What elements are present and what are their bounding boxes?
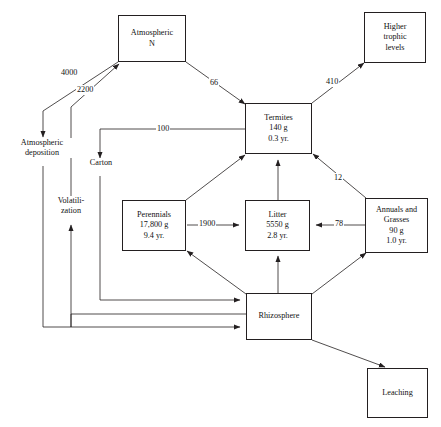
- node-label: Litter: [268, 210, 286, 220]
- node-litter[interactable]: Litter 5550 g 2.8 yr.: [245, 200, 310, 251]
- flow-rhizosphere-to-leaching: [312, 340, 385, 367]
- flux-label-66-text: 66: [209, 78, 219, 88]
- node-label: Leaching: [382, 388, 412, 398]
- node-label: Rhizosphere: [259, 311, 300, 321]
- flow-deposition-4000: [43, 62, 118, 137]
- flux-label-2200: 2200: [76, 85, 94, 95]
- flow-termites-to-carton-100: [100, 129, 245, 158]
- node-annuals-and-grasses[interactable]: Annuals and Grasses 90 g 1.0 yr.: [365, 198, 428, 253]
- node-label: 90 g: [389, 226, 403, 236]
- node-rhizosphere[interactable]: Rhizosphere: [246, 293, 312, 340]
- flow-rhizosphere-to-annuals: [312, 253, 366, 294]
- node-label: 140 g: [269, 123, 287, 133]
- label-line: Atmospheric: [6, 138, 78, 148]
- node-label: 17,800 g: [140, 220, 169, 230]
- label-carton: Carton: [82, 158, 120, 168]
- node-perennials[interactable]: Perennials 17,800 g 9.4 yr.: [122, 200, 186, 251]
- label-line: zation: [50, 206, 92, 216]
- node-leaching[interactable]: Leaching: [367, 368, 428, 418]
- node-label: Higher: [384, 22, 407, 32]
- label-atmospheric-deposition: Atmospheric deposition: [6, 138, 78, 158]
- node-label: 0.3 yr.: [268, 134, 289, 144]
- node-label: 1.0 yr.: [386, 236, 407, 246]
- flux-label-4000: 4000: [60, 68, 78, 78]
- flux-label-12: 12: [333, 173, 343, 183]
- node-atmospheric-n[interactable]: Atmospheric N: [118, 15, 186, 62]
- label-line: Carton: [82, 158, 120, 168]
- node-label: Atmospheric: [131, 28, 173, 38]
- node-label: Perennials: [137, 210, 171, 220]
- node-label: 2.8 yr.: [267, 231, 288, 241]
- flow-perennials-to-termites: [186, 155, 245, 200]
- flow-rhizosphere-out-volatilization: [71, 314, 246, 327]
- node-label: Termites: [264, 113, 293, 123]
- node-termites[interactable]: Termites 140 g 0.3 yr.: [245, 103, 312, 154]
- node-label: levels: [385, 43, 404, 53]
- flow-rhizosphere-to-perennials: [187, 251, 246, 294]
- label-volatilization: Volatili- zation: [50, 196, 92, 216]
- label-line: Volatili-: [50, 196, 92, 206]
- flux-label-100: 100: [156, 124, 170, 134]
- node-label: N: [149, 39, 155, 49]
- flux-label-410: 410: [325, 77, 339, 87]
- node-label: trophic: [383, 32, 406, 42]
- flux-label-1900: 1900: [198, 219, 216, 229]
- label-line: deposition: [6, 148, 78, 158]
- node-label: 5550 g: [266, 220, 289, 230]
- node-label: Annuals and: [376, 205, 417, 215]
- node-label: 9.4 yr.: [144, 231, 165, 241]
- flux-label-78: 78: [334, 219, 344, 229]
- figure-canvas: Atmospheric N Higher trophic levels Term…: [0, 0, 441, 427]
- node-label: Grasses: [384, 215, 409, 225]
- node-higher-trophic-levels[interactable]: Higher trophic levels: [364, 12, 426, 63]
